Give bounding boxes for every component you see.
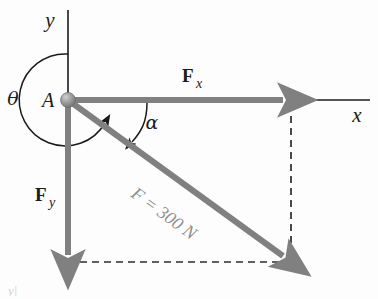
- force-diagram-figure: y x θ A α F x F y F = 300 N y|: [0, 0, 378, 299]
- y-axis-label: y: [43, 8, 55, 32]
- axes-group: [68, 10, 370, 100]
- fx-label-subscript: x: [195, 76, 203, 91]
- theta-angle-label: θ: [7, 87, 19, 109]
- fy-label-base: F: [35, 184, 47, 205]
- origin-point-dot: [61, 93, 76, 108]
- fy-label-subscript: y: [47, 195, 56, 210]
- x-axis-label: x: [351, 103, 362, 127]
- alpha-angle-label: α: [146, 111, 159, 133]
- fy-vector-label: F y: [35, 184, 56, 210]
- fx-vector-label: F x: [182, 65, 203, 91]
- fx-label-base: F: [182, 65, 194, 86]
- cropped-text-artifact: y|: [8, 286, 17, 296]
- force-diagram-canvas: y x θ A α F x F y F = 300 N: [0, 0, 378, 299]
- origin-point-label: A: [40, 89, 55, 111]
